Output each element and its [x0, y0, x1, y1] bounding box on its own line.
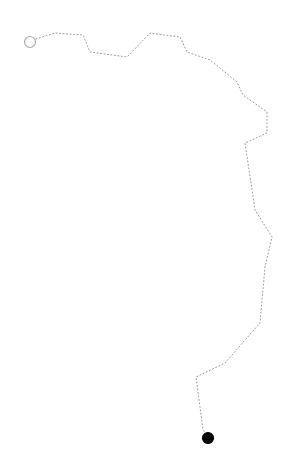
end-point-marker[interactable]: [203, 433, 214, 444]
route-map-canvas: [0, 0, 290, 475]
background: [0, 0, 290, 475]
start-point-marker[interactable]: [25, 37, 36, 48]
